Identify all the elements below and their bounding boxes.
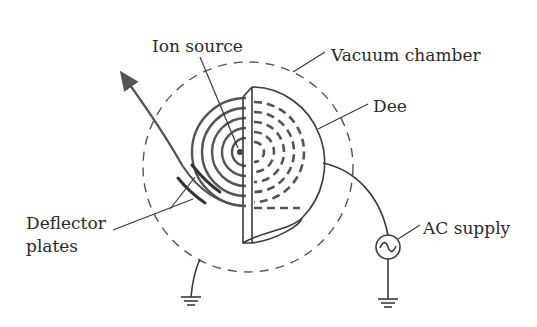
ac-supply: [376, 235, 400, 299]
cyclotron-diagram: Ion source Vacuum chamber Dee Deflector …: [0, 0, 537, 327]
chamber-ground-wire: [191, 259, 200, 297]
label-deflector-line2: plates: [26, 236, 78, 256]
ground-icon-left: [181, 297, 201, 305]
ac-supply-leader: [398, 225, 420, 239]
vacuum-chamber-leader: [293, 52, 325, 72]
sine-icon: [380, 243, 396, 252]
ground-icon-right: [378, 299, 398, 307]
label-ion-source: Ion source: [152, 36, 243, 56]
label-dee: Dee: [373, 96, 407, 116]
label-ac-supply: AC supply: [422, 218, 511, 238]
ion-source-dot: [237, 149, 243, 155]
ion-orbits-dee: [254, 102, 304, 208]
label-vacuum-chamber: Vacuum chamber: [330, 45, 481, 65]
dee-wire: [323, 163, 388, 235]
label-deflector-line1: Deflector: [26, 213, 107, 233]
dee-leader: [318, 104, 368, 129]
